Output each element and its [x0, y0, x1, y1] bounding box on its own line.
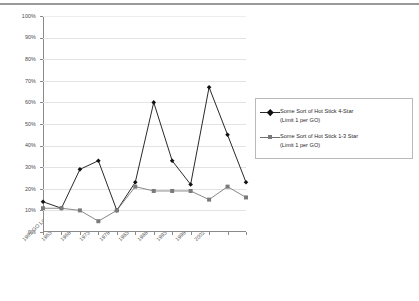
data-point-marker [133, 185, 137, 189]
top-divider [0, 3, 419, 5]
y-axis-tick-label: 40% [0, 142, 36, 148]
data-point-marker [96, 158, 101, 163]
data-point-marker [78, 208, 82, 212]
x-axis-tick [191, 232, 192, 235]
data-point-marker [244, 195, 248, 199]
x-axis-tick [117, 232, 118, 235]
series-layer [43, 16, 246, 232]
data-point-marker [225, 133, 230, 138]
chart-container: 100%90%80%70%60%50%40%30%20%10%0% 1961 G… [0, 0, 419, 301]
data-point-marker [207, 85, 212, 90]
data-point-marker [41, 206, 45, 210]
x-axis-tick [135, 232, 136, 235]
data-point-marker [244, 180, 249, 185]
x-axis-tick [246, 232, 247, 235]
y-axis-tick-label: 50% [0, 121, 36, 127]
series-line [43, 87, 246, 210]
data-point-marker [207, 198, 211, 202]
legend-item-1-3-star[interactable]: Some Sort of Hot Stick 1-3 Star (Limit 1… [260, 132, 408, 149]
data-point-marker [170, 189, 174, 193]
legend-item-4-star[interactable]: Some Sort of Hot Stick 4-Star (Limit 1 p… [260, 107, 408, 124]
x-axis-tick [154, 232, 155, 235]
x-axis-tick [209, 232, 210, 235]
plot-area [43, 16, 246, 232]
legend-marker-diamond-icon [260, 108, 280, 117]
legend-label-4-star: Some Sort of Hot Stick 4-Star (Limit 1 p… [280, 107, 353, 124]
data-point-marker [152, 189, 156, 193]
data-point-marker [59, 206, 63, 210]
data-point-marker [151, 100, 156, 105]
data-point-marker [96, 219, 100, 223]
y-axis-tick-label: 70% [0, 78, 36, 84]
y-axis-tick-label: 60% [0, 99, 36, 105]
data-point-marker [226, 185, 230, 189]
data-point-marker [133, 180, 138, 185]
x-axis-tick [172, 232, 173, 235]
chart-legend: Some Sort of Hot Stick 4-Star (Limit 1 p… [255, 98, 413, 159]
y-axis-tick-label: 20% [0, 186, 36, 192]
y-axis-tick-label: 100% [0, 13, 36, 19]
x-axis-tick [98, 232, 99, 235]
series-line [43, 187, 246, 222]
x-axis-tick [228, 232, 229, 235]
data-point-marker [78, 167, 83, 172]
data-point-marker [115, 208, 119, 212]
legend-label-1-3-star: Some Sort of Hot Stick 1-3 Star (Limit 1… [280, 132, 358, 149]
data-point-marker [41, 199, 46, 204]
y-axis-tick-label: 10% [0, 207, 36, 213]
y-axis-tick-label: 90% [0, 34, 36, 40]
y-axis-tick-label: 30% [0, 164, 36, 170]
y-axis-tick-label: 80% [0, 56, 36, 62]
legend-marker-square-icon [260, 133, 280, 142]
data-point-marker [189, 189, 193, 193]
